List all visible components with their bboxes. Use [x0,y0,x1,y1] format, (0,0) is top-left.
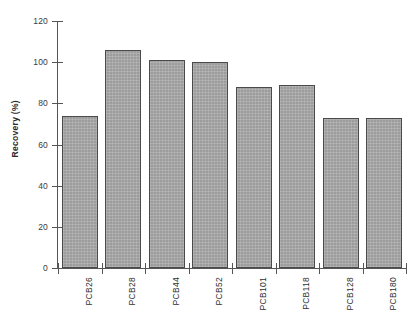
y-axis-tick-label: 40 [8,181,48,191]
y-axis-tick-label: 60 [8,140,48,150]
bar [279,85,315,268]
bar [236,87,272,268]
bar [192,62,228,268]
x-axis-tick-label: PCB26 [84,277,94,305]
bar-chart-figure: Recovery (%) 020406080100120 PCB26PCB28P… [0,0,417,333]
plot-area [58,21,406,268]
y-axis-tick-label: 80 [8,98,48,108]
x-axis-tick-label: PCB180 [388,277,398,310]
bar [105,50,141,268]
y-axis-tick-label: 100 [8,57,48,67]
x-axis-tick [406,263,407,274]
y-axis-tick-label: 120 [8,16,48,26]
x-axis-tick-label: PCB44 [171,277,181,305]
x-axis-tick-label: PCB101 [258,277,268,310]
bar [149,60,185,268]
x-axis-tick-label: PCB28 [127,277,137,305]
bar [62,116,98,268]
x-axis-tick-label: PCB128 [345,277,355,310]
y-axis-tick-label: 0 [8,263,48,273]
bar [323,118,359,268]
x-axis-tick-label: PCB52 [214,277,224,305]
bar [366,118,402,268]
y-axis-tick-label: 20 [8,222,48,232]
x-axis-tick-label: PCB118 [301,277,311,310]
